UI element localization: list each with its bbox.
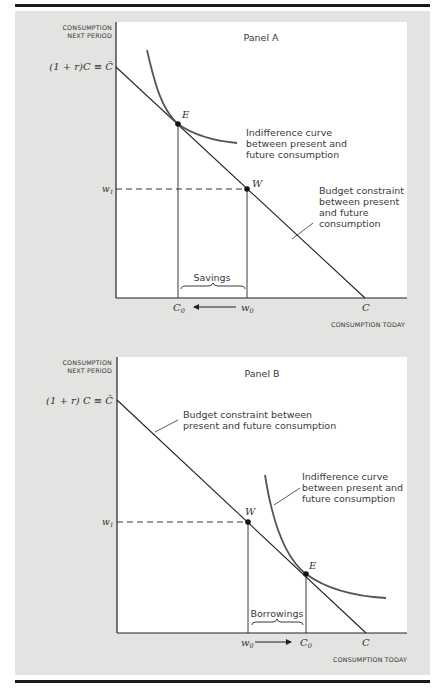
panel-a-w0-label: w0 xyxy=(241,302,254,315)
panel-b-point-w xyxy=(245,519,251,525)
panel-a-indifference-annotation: Indifference curve between present and f… xyxy=(246,127,350,160)
panel-b-c0-label: C0 xyxy=(300,637,312,650)
panel-b-y-intercept-label: (1 + r) C ≡ C̄ xyxy=(46,395,113,406)
panel-b-title: Panel B xyxy=(244,368,279,379)
panel-b-indifference-annotation: Indifference curve between present and f… xyxy=(302,471,406,504)
panel-a: Panel A CONSUMPTION NEXT PERIOD (1 + r)C… xyxy=(49,22,407,328)
panel-a-savings-label: Savings xyxy=(193,272,230,283)
panel-a-title: Panel A xyxy=(243,32,279,43)
panel-a-y-axis-label-1: CONSUMPTION xyxy=(63,24,113,31)
panel-b-point-e xyxy=(303,571,309,577)
panel-a-point-e-label: E xyxy=(181,109,190,120)
panel-b-x-axis-label: CONSUMPTION TODAY xyxy=(333,656,407,663)
panel-b-y-axis-label-1: CONSUMPTION xyxy=(63,359,113,366)
panel-b-y-axis-label-2: NEXT PERIOD xyxy=(67,367,112,374)
intertemporal-choice-diagram: Panel A CONSUMPTION NEXT PERIOD (1 + r)C… xyxy=(0,0,442,698)
panel-a-w1-label: w1 xyxy=(102,184,114,195)
panel-a-c0-label: C0 xyxy=(173,302,185,315)
panel-b-point-w-label: W xyxy=(245,506,256,517)
panel-b-w1-label: w1 xyxy=(102,517,114,528)
panel-a-y-intercept-label: (1 + r)C ≡ C̄ xyxy=(49,61,113,72)
panel-a-c-label: C xyxy=(362,302,370,313)
panel-a-point-w xyxy=(244,186,250,192)
panel-a-y-axis-label-2: NEXT PERIOD xyxy=(67,32,112,39)
panel-a-x-axis-label: CONSUMPTION TODAY xyxy=(331,321,405,328)
panel-b-budget-annotation: Budget constraint between present and fu… xyxy=(183,409,336,431)
panel-a-point-w-label: W xyxy=(252,178,263,189)
panel-b-c-label: C xyxy=(362,637,370,648)
panel-b-borrowings-label: Borrowings xyxy=(251,608,304,619)
panel-b-point-e-label: E xyxy=(308,560,317,571)
panel-a-plot-area xyxy=(116,22,407,298)
panel-b-w0-label: w0 xyxy=(241,637,254,650)
panel-b: Panel B CONSUMPTION NEXT PERIOD (1 + r) … xyxy=(46,357,407,663)
panel-a-point-e xyxy=(175,121,181,127)
